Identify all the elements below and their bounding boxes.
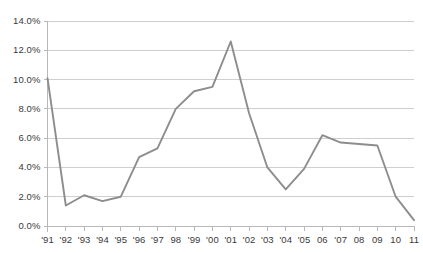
x-axis-tick-label: 11 <box>401 234 423 245</box>
data-series-line <box>48 42 415 221</box>
y-axis-tick-label: 6.0% <box>18 132 40 143</box>
chart-plot-area <box>0 0 423 253</box>
x-axis-ticks <box>48 226 415 231</box>
y-axis-tick-label: 10.0% <box>13 74 40 85</box>
y-axis-tick-label: 2.0% <box>18 191 40 202</box>
y-axis-tick-label: 0.0% <box>18 220 40 231</box>
y-axis-tick-label: 12.0% <box>13 44 40 55</box>
y-axis-tick-label: 4.0% <box>18 161 40 172</box>
y-axis-tick-label: 8.0% <box>18 103 40 114</box>
gridlines <box>48 21 415 226</box>
y-axis-ticks <box>44 21 48 226</box>
line-chart: 14.0%12.0%10.0%8.0%6.0%4.0%2.0%0.0% '91'… <box>0 0 423 253</box>
y-axis-tick-label: 14.0% <box>13 15 40 26</box>
